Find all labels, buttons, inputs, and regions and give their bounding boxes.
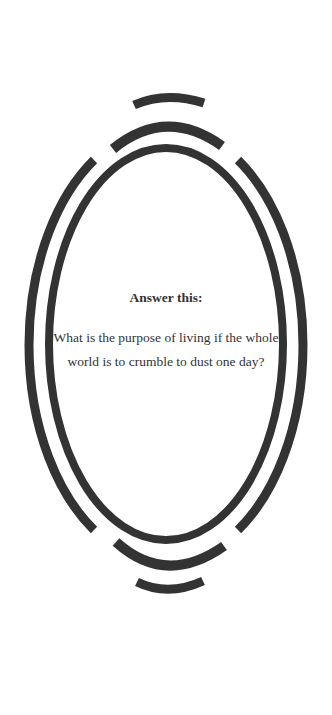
- top-small-arc: [134, 97, 204, 105]
- bottom-medium-arc: [116, 542, 224, 566]
- heading: Answer this:: [50, 290, 282, 306]
- prompt-card: Answer this: What is the purpose of livi…: [50, 290, 282, 374]
- question-text: What is the purpose of living if the who…: [50, 326, 282, 374]
- bottom-small-arc: [137, 581, 203, 589]
